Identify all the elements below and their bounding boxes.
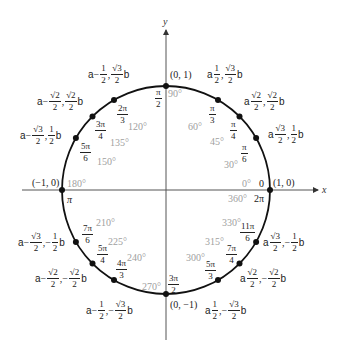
coord-45: a √22, √22 b: [244, 91, 285, 112]
rad-7pi-4: 7π4: [226, 244, 237, 265]
x-axis-label: x: [322, 184, 326, 195]
rad-pi: π: [67, 195, 72, 205]
rad-3pi-4: 3π4: [95, 120, 106, 141]
y-axis-label: y: [163, 16, 167, 27]
deg-30: 30°: [224, 160, 238, 170]
rad-zero: 0: [259, 179, 264, 189]
deg-60: 60°: [188, 122, 202, 132]
deg-90: 90°: [168, 89, 182, 99]
coord-left: (−1, 0): [32, 178, 59, 188]
deg-270: 270°: [142, 282, 161, 292]
deg-0: 0°: [242, 179, 251, 189]
rad-11pi-6: 11π6: [240, 222, 255, 243]
coord-315: a √22,− √22 b: [240, 268, 286, 289]
rad-5pi-3: 5π3: [205, 260, 216, 281]
rad-two-pi: 2π: [254, 194, 264, 204]
rad-pi-3: π3: [209, 104, 216, 125]
coord-330: a √32,− 12 b: [263, 232, 304, 253]
coord-300: a 12,− √32 b: [205, 300, 246, 321]
coord-240: a− 12,− √32 b: [86, 300, 133, 321]
deg-180: 180°: [67, 179, 86, 189]
coord-top: (0, 1): [170, 70, 192, 80]
coord-150: a− √32, 12 b: [20, 125, 61, 146]
deg-225: 225°: [108, 237, 127, 247]
coord-225: a− √22,− √22 b: [35, 268, 87, 289]
deg-150: 150°: [97, 157, 116, 167]
deg-330: 330°: [222, 218, 241, 228]
rad-5pi-6: 5π6: [80, 142, 91, 163]
rad-pi-2: π2: [155, 88, 162, 109]
coord-bottom: (0, −1): [170, 300, 197, 310]
deg-45: 45°: [210, 137, 224, 147]
deg-300: 300°: [186, 253, 205, 263]
coord-60: a 12, √32 b: [207, 64, 243, 85]
coord-210: a− √32,− 12 b: [18, 232, 65, 253]
rad-2pi-3: 2π3: [117, 104, 128, 125]
coord-30: a √32, 12 b: [268, 124, 304, 145]
rad-pi-4: π4: [230, 120, 237, 141]
deg-135: 135°: [110, 138, 129, 148]
coord-135: a− √22, √22 b: [37, 91, 83, 112]
deg-210: 210°: [96, 218, 115, 228]
deg-315: 315°: [205, 237, 224, 247]
rad-7pi-6: 7π6: [82, 224, 93, 245]
unit-circle-diagram: y x (0, 1) (0, −1) (−1, 0) (1, 0) 0 2π π…: [0, 0, 344, 357]
deg-240: 240°: [127, 253, 146, 263]
deg-120: 120°: [128, 122, 147, 132]
coord-right: (1, 0): [273, 178, 295, 188]
deg-360: 360°: [228, 194, 247, 204]
rad-pi-6: π6: [241, 143, 248, 164]
rad-3pi-2: 3π2: [168, 274, 179, 295]
rad-5pi-4: 5π4: [97, 244, 108, 265]
rad-4pi-3: 4π3: [116, 259, 127, 280]
coord-120: a− 12, √32 b: [88, 64, 129, 85]
